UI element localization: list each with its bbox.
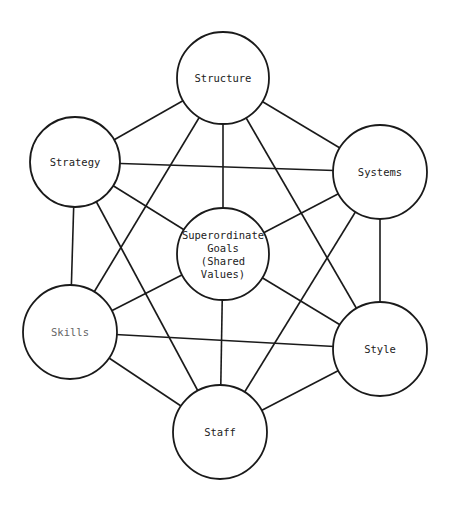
node-systems: Systems [333,125,427,219]
node-center: SuperordinateGoals(SharedValues) [177,208,269,300]
nodes: StructureStrategySystemsSuperordinateGoa… [23,32,427,479]
node-label: Values) [201,268,245,280]
seven-s-diagram: StructureStrategySystemsSuperordinateGoa… [0,0,454,507]
node-structure: Structure [177,32,269,124]
node-staff: Staff [173,385,267,479]
node-skills: Skills [23,285,117,379]
node-label: Goals [207,242,239,254]
node-label: Skills [51,326,89,338]
node-style: Style [333,302,427,396]
node-strategy: Strategy [30,117,120,207]
node-label: Systems [358,166,402,178]
node-label: Superordinate [182,229,264,241]
node-label: (Shared [201,255,245,267]
node-label: Structure [195,72,252,84]
node-label: Strategy [50,156,101,168]
node-label: Style [364,343,396,355]
node-label: Staff [204,426,236,438]
